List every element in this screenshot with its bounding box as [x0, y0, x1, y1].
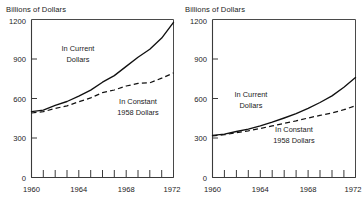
chart-panel-left: Billions of Dollars 0 300 600 900 1200: [0, 0, 181, 203]
series-label-current-line1-left: In Current: [62, 44, 95, 53]
x-tick-label-1972-right: 1972: [345, 185, 362, 194]
y-tick-label-600-left: 600: [13, 95, 26, 104]
y-tick-label-900-left: 900: [13, 55, 26, 64]
y-tick-label-600-right: 600: [194, 95, 207, 104]
y-tick-label-1200-right: 1200: [190, 17, 207, 26]
chart-svg-right: Billions of Dollars 0 300 600 900 1200: [181, 0, 362, 203]
series-label-current-line2-right: Dollars: [240, 101, 263, 110]
series-label-constant-line1-right: In Constant: [275, 125, 313, 134]
figure-root: Billions of Dollars 0 300 600 900 1200: [0, 0, 362, 203]
chart-svg-left: Billions of Dollars 0 300 600 900 1200: [0, 0, 181, 203]
x-tick-label-1964-left: 1964: [70, 185, 87, 194]
series-label-current-line1-right: In Current: [235, 90, 268, 99]
series-label-constant-line1-left: In Constant: [119, 97, 157, 106]
x-tick-label-1964-right: 1964: [252, 185, 269, 194]
x-tick-label-1972-left: 1972: [164, 185, 181, 194]
x-tick-label-1968-left: 1968: [118, 185, 135, 194]
y-tick-label-300-left: 300: [13, 134, 26, 143]
y-tick-label-1200-left: 1200: [9, 17, 26, 26]
series-label-current-line2-left: Dollars: [67, 55, 90, 64]
series-label-constant-line2-left: 1958 Dollars: [117, 108, 159, 117]
x-tick-label-1960-right: 1960: [204, 185, 221, 194]
chart-panel-right: Billions of Dollars 0 300 600 900 1200: [181, 0, 362, 203]
x-tick-label-1960-left: 1960: [23, 185, 40, 194]
y-tick-label-0-right: 0: [203, 174, 207, 183]
y-tick-label-300-right: 300: [194, 134, 207, 143]
y-axis-title-right: Billions of Dollars: [185, 5, 245, 14]
x-tick-label-1968-right: 1968: [300, 185, 317, 194]
y-axis-title-left: Billions of Dollars: [6, 5, 66, 14]
y-tick-label-0-left: 0: [22, 174, 26, 183]
series-label-constant-line2-right: 1958 Dollars: [273, 136, 315, 145]
y-tick-label-900-right: 900: [194, 55, 207, 64]
